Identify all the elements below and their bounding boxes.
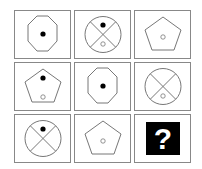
cell-r1-c3 (134, 10, 191, 59)
cell-r2-c3 (134, 62, 191, 111)
white-dot-icon (101, 42, 105, 46)
black-dot-icon (100, 83, 105, 88)
black-dot-icon (40, 75, 45, 80)
octagon-icon (75, 63, 130, 110)
cell-r2-c2 (74, 62, 131, 111)
black-dot-icon (40, 31, 45, 36)
octagon-icon (15, 11, 70, 58)
cell-r1-c2 (74, 10, 131, 59)
white-dot-icon (161, 35, 165, 39)
pentagon-icon (135, 11, 190, 58)
pentagon-icon (75, 115, 130, 162)
cell-r3-c3: ? (134, 114, 191, 163)
pentagon-icon (15, 63, 70, 110)
cell-r3-c1 (14, 114, 71, 163)
black-dot-icon (100, 22, 105, 27)
circle-x-icon (75, 11, 130, 58)
white-dot-icon (161, 94, 165, 98)
circle-x-icon (135, 63, 190, 110)
puzzle-grid: ? (14, 10, 192, 164)
white-dot-icon (101, 139, 105, 143)
white-dot-icon (41, 95, 45, 99)
circle-x-icon (15, 115, 70, 162)
cell-r3-c2 (74, 114, 131, 163)
black-dot-icon (40, 126, 45, 131)
cell-r2-c1 (14, 62, 71, 111)
question-mark-box: ? (146, 122, 180, 155)
cell-r1-c1 (14, 10, 71, 59)
